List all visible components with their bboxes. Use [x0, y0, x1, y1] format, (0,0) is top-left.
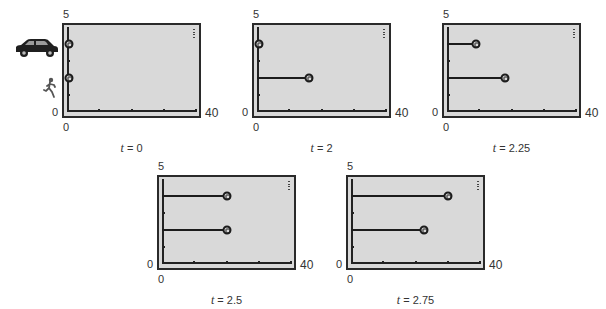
x-tick: [478, 109, 480, 112]
runner-icon: [43, 77, 57, 99]
window-indicator-icon: [477, 181, 479, 191]
x-tick: [195, 109, 197, 112]
runner-track-line: [162, 229, 227, 231]
x-tick: [98, 109, 100, 112]
y-max-label: 5: [253, 9, 259, 20]
time-caption: t = 2.25: [442, 141, 581, 156]
y-tick: [162, 212, 165, 214]
calculator-screen: [62, 23, 201, 118]
x-tick: [511, 109, 513, 112]
runner-track-line: [351, 229, 424, 231]
y-max-label: 5: [63, 9, 69, 20]
y-max-label: 5: [347, 161, 353, 172]
runner-marker: [65, 74, 74, 83]
car-marker: [472, 40, 481, 49]
window-indicator-icon: [193, 29, 195, 39]
graph-panel-t2-25: 5 0 0 40 t = 2.25: [442, 23, 602, 173]
car-icon: [14, 38, 60, 58]
x-tick: [321, 109, 323, 112]
time-caption: t = 2.5: [157, 293, 296, 308]
x-tick: [163, 109, 165, 112]
y-tick: [257, 60, 260, 62]
x-tick: [290, 261, 292, 264]
x-max-label: 40: [205, 107, 218, 119]
car-marker: [222, 192, 231, 201]
x-tick: [382, 261, 384, 264]
runner-marker: [501, 74, 510, 83]
y-max-label: 5: [443, 9, 449, 20]
x-tick: [131, 109, 133, 112]
y-min-label: 0: [52, 107, 58, 118]
y-max-label: 5: [158, 161, 164, 172]
x-max-label: 40: [300, 259, 313, 271]
y-tick: [162, 246, 165, 248]
y-min-label: 0: [242, 107, 248, 118]
y-tick: [67, 94, 70, 96]
x-tick: [575, 109, 577, 112]
x-tick: [288, 109, 290, 112]
car-marker: [443, 192, 452, 201]
x-min-label: 0: [63, 122, 69, 133]
graph-panel-t0: 5 0 0 40 t = 0: [62, 23, 222, 173]
y-min-label: 0: [432, 107, 438, 118]
y-axis: [447, 27, 449, 112]
x-min-label: 0: [347, 274, 353, 285]
car-track-line: [162, 195, 227, 197]
y-axis: [162, 179, 164, 264]
calculator-screen: [442, 23, 581, 118]
plot-area: [162, 179, 291, 264]
time-caption: t = 2.75: [346, 293, 485, 308]
x-max-label: 40: [395, 107, 408, 119]
window-indicator-icon: [288, 181, 290, 191]
graph-panel-t2-5: 5 0 0 40 t = 2.5: [157, 175, 317, 309]
car-marker: [65, 40, 74, 49]
x-tick: [226, 261, 228, 264]
plot-area: [447, 27, 576, 112]
plot-area: [67, 27, 196, 112]
y-axis: [351, 179, 353, 264]
y-min-label: 0: [336, 259, 342, 270]
x-tick: [479, 261, 481, 264]
x-tick: [415, 261, 417, 264]
x-tick: [353, 109, 355, 112]
y-tick: [447, 60, 450, 62]
plot-area: [351, 179, 480, 264]
y-tick: [67, 60, 70, 62]
window-indicator-icon: [573, 29, 575, 39]
x-min-label: 0: [443, 122, 449, 133]
car-track-line: [351, 195, 448, 197]
graph-panel-t2-75: 5 0 0 40 t = 2.75: [346, 175, 506, 309]
time-caption: t = 0: [62, 141, 201, 156]
runner-track-line: [447, 77, 505, 79]
runner-marker: [304, 74, 313, 83]
runner-marker: [222, 226, 231, 235]
time-caption: t = 2: [252, 141, 391, 156]
y-tick: [351, 212, 354, 214]
y-min-label: 0: [147, 259, 153, 270]
calculator-screen: [252, 23, 391, 118]
runner-marker: [419, 226, 428, 235]
x-tick: [258, 261, 260, 264]
x-tick: [193, 261, 195, 264]
x-tick: [543, 109, 545, 112]
calculator-screen: [346, 175, 485, 270]
runner-track-line: [257, 77, 309, 79]
y-tick: [351, 246, 354, 248]
x-tick: [385, 109, 387, 112]
x-min-label: 0: [253, 122, 259, 133]
calculator-screen: [157, 175, 296, 270]
x-max-label: 40: [585, 107, 598, 119]
graph-panel-t2: 5 0 0 40 t = 2: [252, 23, 412, 173]
window-indicator-icon: [383, 29, 385, 39]
plot-area: [257, 27, 386, 112]
car-marker: [255, 40, 264, 49]
x-tick: [447, 261, 449, 264]
x-min-label: 0: [158, 274, 164, 285]
y-tick: [447, 94, 450, 96]
y-tick: [257, 94, 260, 96]
x-max-label: 40: [489, 259, 502, 271]
